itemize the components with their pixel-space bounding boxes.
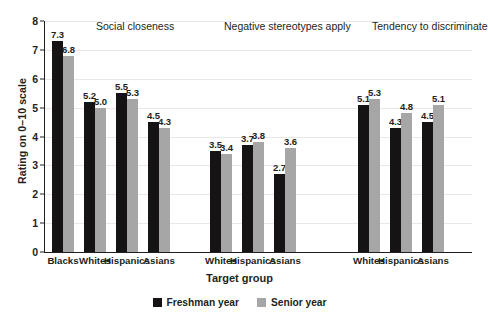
y-axis-tick-mark (40, 49, 44, 50)
bar-value-label: 5.3 (126, 87, 139, 98)
bar-senior (253, 142, 264, 252)
bar-value-label: 6.8 (62, 44, 75, 55)
bar-value-label: 4.8 (400, 101, 413, 112)
bar-freshman (274, 174, 285, 252)
y-axis-tick-mark (40, 165, 44, 166)
bar-senior (285, 148, 296, 252)
y-axis-tick-mark (40, 252, 44, 253)
bar-senior (401, 113, 412, 252)
y-axis-title: Rating on 0–10 scale (16, 21, 28, 241)
legend-swatch-freshman (153, 298, 162, 307)
y-axis-tick-mark (40, 136, 44, 137)
x-axis-tick-label: Asians (269, 255, 301, 266)
legend-item: Freshman year (153, 297, 239, 308)
y-axis-tick-mark (40, 223, 44, 224)
bar-senior (63, 56, 74, 252)
x-axis-tick-label: Asians (143, 255, 175, 266)
bar-freshman (148, 122, 159, 252)
bar-senior (221, 154, 232, 252)
bar-value-label: 5.1 (432, 93, 445, 104)
bar-value-label: 4.3 (158, 116, 171, 127)
y-axis-tick-mark (40, 194, 44, 195)
bar-value-label: 3.6 (284, 136, 297, 147)
bar-value-label: 3.4 (220, 142, 233, 153)
bar-senior (433, 105, 444, 252)
x-axis-line (44, 252, 472, 253)
plot-area: 012345678Social closeness7.36.8Blacks5.2… (44, 21, 472, 253)
bar-freshman (422, 122, 433, 252)
bar-value-label: 7.3 (51, 29, 64, 40)
bar-freshman (390, 128, 401, 252)
bar-freshman (84, 102, 95, 252)
gridline (45, 50, 472, 51)
bar-value-label: 5.3 (368, 87, 381, 98)
panel-title: Negative stereotypes apply (224, 20, 351, 32)
bar-senior (127, 99, 138, 252)
bar-freshman (52, 41, 63, 252)
bar-senior (95, 108, 106, 252)
y-axis-tick-mark (40, 78, 44, 79)
panel-title: Tendency to discriminate (372, 20, 488, 32)
y-axis-tick-mark (40, 107, 44, 108)
chart-legend: Freshman yearSenior year (0, 297, 479, 308)
x-axis-tick-label: Asians (417, 255, 449, 266)
legend-item: Senior year (257, 297, 327, 308)
y-axis-tick-mark (40, 21, 44, 22)
legend-swatch-senior (257, 298, 266, 307)
bar-senior (369, 99, 380, 252)
bar-freshman (116, 93, 127, 252)
gridline (45, 79, 472, 80)
bar-freshman (358, 105, 369, 252)
x-axis-title: Target group (0, 272, 479, 284)
bar-value-label: 5.0 (94, 96, 107, 107)
x-axis-tick-label: Blacks (47, 255, 78, 266)
legend-label: Senior year (271, 297, 327, 308)
bar-freshman (242, 145, 253, 252)
bar-value-label: 3.8 (252, 130, 265, 141)
panel-title: Social closeness (96, 20, 174, 32)
bar-senior (159, 128, 170, 252)
bar-freshman (210, 151, 221, 252)
legend-label: Freshman year (167, 297, 239, 308)
